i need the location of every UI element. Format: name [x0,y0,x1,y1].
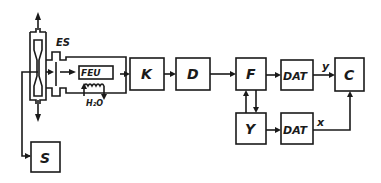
block-y: Y [236,113,266,144]
feu-label: FEU [81,68,101,78]
block-dat-bottom: DAT [281,113,313,144]
d-label: D [187,66,199,82]
block-c: C [335,58,364,91]
block-s: S [31,142,60,172]
y-signal-label: y [322,60,330,73]
source-tube [22,12,46,159]
f-label: F [246,66,256,82]
block-d: D [176,58,210,90]
dat-top-label: DAT [283,70,309,83]
c-label: C [344,67,355,83]
es-label: ES [56,37,70,48]
feu-block: FEU H₂O [79,66,113,108]
block-f: F [236,58,266,90]
block-k: K [130,58,164,90]
block-diagram: ES FEU H₂O K D F DAT [0,0,381,183]
dat-bottom-label: DAT [283,124,309,137]
block-dat-top: DAT [281,60,313,90]
k-label: K [141,66,153,82]
s-label: S [40,150,50,166]
water-label: H₂O [86,99,103,108]
x-signal-label: x [316,116,325,129]
